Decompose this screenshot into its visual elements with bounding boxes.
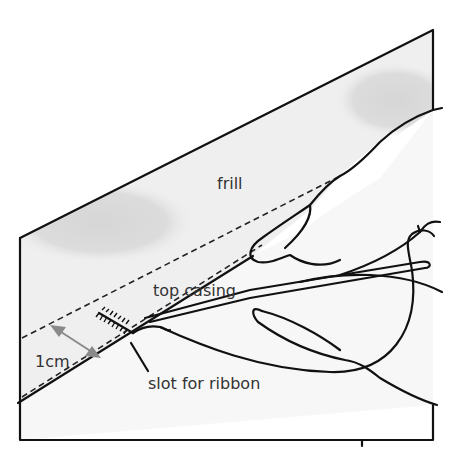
shading-left [5, 180, 195, 264]
shading-right [335, 62, 455, 138]
label-slot-for-ribbon: slot for ribbon [148, 374, 260, 393]
label-1cm: 1cm [35, 352, 70, 371]
label-top-casing: top casing [153, 281, 236, 300]
label-frill: frill [217, 174, 243, 193]
frill-casing-diagram: frill top casing 1cm slot for ribbon [0, 0, 468, 476]
